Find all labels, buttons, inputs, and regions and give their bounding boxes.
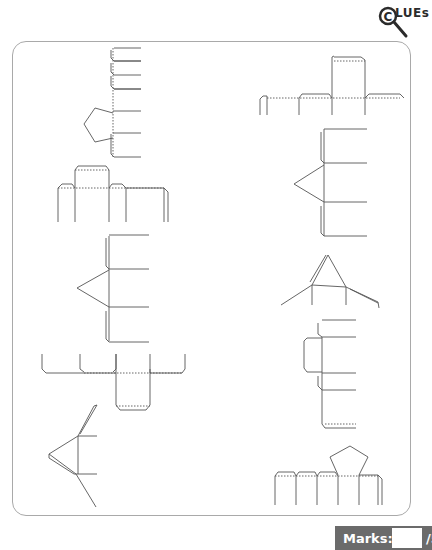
marks-bar: Marks: /5 <box>335 526 432 550</box>
net-3 <box>77 235 149 342</box>
net-10 <box>275 446 382 505</box>
marks-total: /5 <box>422 531 432 546</box>
net-5 <box>49 405 97 507</box>
net-8 <box>281 255 379 308</box>
net-1 <box>84 48 141 157</box>
net-2 <box>58 166 168 222</box>
net-4 <box>42 354 185 410</box>
marks-input[interactable] <box>392 528 422 548</box>
net-7 <box>294 129 367 236</box>
net-6 <box>260 56 404 115</box>
nets-canvas <box>0 0 432 550</box>
net-9 <box>304 320 356 428</box>
marks-label: Marks: <box>335 531 392 546</box>
